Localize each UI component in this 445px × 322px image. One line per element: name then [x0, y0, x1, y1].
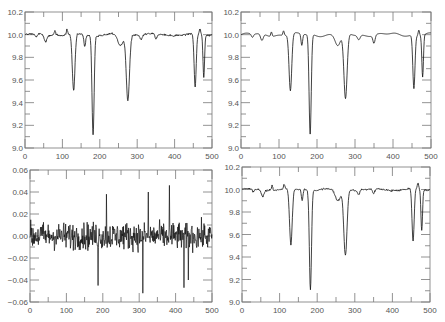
y-tick-label: 9.8 — [228, 53, 240, 62]
plot-frame — [242, 167, 430, 302]
data-line — [241, 30, 431, 134]
y-tick-label: 10.2 — [223, 8, 239, 17]
x-tick-label: 300 — [133, 306, 147, 315]
x-tick-label: 100 — [56, 152, 70, 161]
x-tick-label: 400 — [386, 152, 400, 161]
panel-bottom-left: 0100200300400500−0.06−0.04−0.020.000.020… — [8, 166, 219, 315]
plot-frame — [25, 12, 212, 148]
data-line — [25, 29, 212, 135]
panel-bottom-right: 01002003004005009.09.29.49.69.810.010.2 — [224, 163, 437, 315]
x-tick-label: 0 — [240, 306, 245, 315]
y-tick-label: 10.2 — [7, 8, 23, 17]
x-tick-label: 300 — [348, 152, 362, 161]
data-line — [242, 183, 430, 290]
y-tick-label: 10.0 — [224, 186, 240, 195]
y-tick-label: 9.4 — [12, 99, 24, 108]
panel-top-left: 01002003004005009.09.29.49.69.810.010.2 — [7, 8, 219, 161]
y-tick-label: 9.2 — [229, 276, 241, 285]
y-tick-label: 9.2 — [12, 121, 24, 130]
y-tick-label: 9.4 — [229, 253, 241, 262]
y-tick-label: 9.6 — [229, 231, 241, 240]
x-tick-label: 100 — [60, 306, 74, 315]
y-tick-label: 0.06 — [12, 166, 28, 175]
light-curve-figure: 01002003004005009.09.29.49.69.810.010.2 … — [0, 0, 445, 322]
y-tick-label: 9.0 — [229, 298, 241, 307]
y-tick-label: 9.0 — [228, 144, 240, 153]
x-tick-label: 0 — [28, 306, 33, 315]
y-tick-label: 0.00 — [12, 232, 28, 241]
y-tick-label: 9.8 — [229, 208, 241, 217]
y-tick-label: 0.02 — [12, 210, 28, 219]
y-tick-label: −0.06 — [8, 298, 29, 307]
x-tick-label: 100 — [273, 306, 287, 315]
y-tick-label: 10.0 — [223, 31, 239, 40]
data-line — [30, 185, 212, 293]
y-tick-label: 9.8 — [12, 53, 24, 62]
y-tick-label: 10.0 — [7, 31, 23, 40]
x-tick-label: 200 — [311, 306, 325, 315]
x-tick-label: 200 — [93, 152, 107, 161]
y-tick-label: 9.2 — [228, 121, 240, 130]
x-tick-label: 100 — [272, 152, 286, 161]
x-tick-label: 300 — [131, 152, 145, 161]
y-tick-label: −0.04 — [8, 276, 29, 285]
y-tick-label: 9.4 — [228, 99, 240, 108]
x-tick-label: 500 — [205, 306, 219, 315]
y-tick-label: 9.0 — [12, 144, 24, 153]
y-tick-label: −0.02 — [8, 254, 29, 263]
x-tick-label: 500 — [205, 152, 219, 161]
x-tick-label: 400 — [168, 152, 182, 161]
x-tick-label: 400 — [169, 306, 183, 315]
x-tick-label: 500 — [424, 152, 438, 161]
x-tick-label: 300 — [348, 306, 362, 315]
y-tick-label: 9.6 — [12, 76, 24, 85]
y-tick-label: 10.2 — [224, 163, 240, 172]
y-tick-label: 9.6 — [228, 76, 240, 85]
plot-frame — [241, 12, 431, 148]
y-tick-label: 0.04 — [12, 188, 28, 197]
panel-top-right: 01002003004005009.09.29.49.69.810.010.2 — [223, 8, 438, 161]
x-tick-label: 0 — [23, 152, 28, 161]
x-tick-label: 0 — [239, 152, 244, 161]
x-tick-label: 200 — [96, 306, 110, 315]
x-tick-label: 200 — [310, 152, 324, 161]
x-tick-label: 400 — [386, 306, 400, 315]
x-tick-label: 500 — [423, 306, 437, 315]
